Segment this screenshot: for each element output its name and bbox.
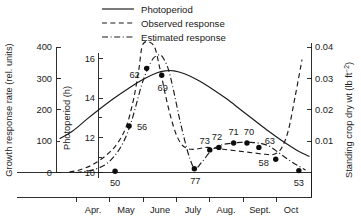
growth-axis-title: Growth response rate (rel. units) [4, 43, 14, 176]
chart-frame [17, 173, 312, 198]
data-point-label-77: 77 [190, 176, 200, 186]
crop-axis-title-suffix: ) [344, 62, 354, 65]
photoperiod-ticklabel-14: 14 [85, 93, 95, 103]
data-point-label-62: 62 [129, 70, 139, 80]
crop-ticklabel-0.03: 0.03 [315, 74, 333, 84]
data-point-labels: 505662697773727170635853 [110, 70, 304, 188]
month-label-oct: Oct [284, 205, 299, 215]
crop-axis-title-main: Standing crop dry wt (lb ft [344, 72, 354, 178]
data-point-label-72: 72 [212, 132, 222, 142]
data-point-marker [144, 66, 149, 71]
crop-ticklabel-0.02: 0.02 [315, 105, 333, 115]
axis-standing-crop-dry-wt: 0.04 0.03 0.02 0.01 Standing crop dry wt… [307, 42, 354, 197]
chart-figure: Photoperiod Observed response Estimated … [0, 0, 361, 224]
data-point-marker [256, 145, 261, 150]
curve-estimated-response [76, 55, 306, 173]
data-point-markers [112, 66, 301, 174]
data-point-label-50: 50 [110, 178, 120, 188]
axis-growth-response-rate: 400 300 200 100 0 Growth response rate (… [4, 42, 61, 178]
month-axis: Apr. May June July Aug. Sept. Oct [76, 197, 298, 215]
photoperiod-ticklabel-12: 12 [85, 133, 95, 143]
data-point-marker [126, 123, 131, 128]
data-curves [60, 42, 309, 173]
month-label-aug: Aug. [216, 205, 235, 215]
axis-photoperiod: 16 14 12 10 Photoperiod (h) [62, 53, 103, 178]
month-label-may: May [117, 205, 135, 215]
legend-label-estimated-response: Estimated response [141, 32, 226, 43]
month-label-july: July [185, 205, 202, 215]
month-label-june: June [150, 205, 170, 215]
data-point-marker [244, 140, 249, 145]
growth-ticklabel-100: 100 [36, 136, 52, 146]
month-label-sept: Sept. [249, 205, 271, 215]
chart-canvas: Photoperiod Observed response Estimated … [0, 0, 361, 224]
month-label-apr: Apr. [85, 205, 102, 215]
data-point-marker [207, 147, 212, 152]
data-point-marker [192, 166, 197, 171]
chart-legend: Photoperiod Observed response Estimated … [102, 4, 226, 43]
crop-axis-title: Standing crop dry wt (lb ft−2) [343, 62, 355, 178]
data-point-marker [216, 145, 221, 150]
crop-ticklabel-0.04: 0.04 [315, 42, 333, 52]
growth-ticklabel-400: 400 [36, 42, 52, 52]
data-point-label-53: 53 [294, 178, 304, 188]
data-point-label-56: 56 [137, 122, 147, 132]
data-point-marker [296, 168, 301, 173]
photoperiod-axis-title: Photoperiod (h) [62, 86, 72, 150]
legend-label-observed-response: Observed response [141, 18, 225, 29]
data-point-marker [159, 73, 164, 78]
data-point-label-73: 73 [200, 136, 210, 146]
growth-ticklabel-300: 300 [36, 74, 52, 84]
curve-observed-response [69, 42, 302, 172]
data-point-label-58: 58 [259, 158, 269, 168]
data-point-label-63: 63 [265, 136, 275, 146]
data-point-marker [231, 140, 236, 145]
photoperiod-ticklabel-16: 16 [85, 54, 95, 64]
data-point-label-69: 69 [158, 83, 168, 93]
data-point-label-70: 70 [244, 127, 254, 137]
data-point-marker [273, 157, 278, 162]
legend-label-photoperiod: Photoperiod [141, 4, 193, 15]
data-point-marker [112, 169, 117, 174]
growth-ticklabel-200: 200 [36, 105, 52, 115]
crop-ticklabel-0.01: 0.01 [315, 136, 333, 146]
data-point-label-71: 71 [228, 127, 238, 137]
